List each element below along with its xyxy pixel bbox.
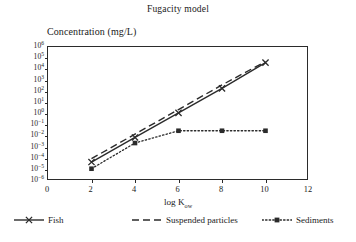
y-axis-tick-label: 10−5 [30,165,44,173]
data-point-marker [220,128,225,133]
legend-label: Fish [48,215,64,225]
data-point-marker [262,60,268,66]
y-axis-tick-mark [45,92,49,93]
x-axis-label: log Kow [0,197,356,207]
y-axis-tick-label: 105 [34,53,44,61]
legend-line-sample [262,215,292,225]
data-point-marker [175,110,181,116]
x-axis-tick-label: 4 [132,185,136,194]
y-axis-tick-label: 100 [34,109,44,117]
legend-item-sediments[interactable]: Sediments [262,215,334,225]
y-axis-tick-label: 101 [34,98,44,106]
legend-label: Suspended particles [166,215,238,225]
data-series-layer [48,47,309,181]
legend-label: Sediments [296,215,334,225]
legend-item-fish[interactable]: Fish [14,215,64,225]
series-fish [88,60,268,166]
y-axis-tick-mark [45,125,49,126]
chart-legend: FishSuspended particlesSediments [0,215,356,231]
plot-area [47,46,308,180]
y-axis-tick-mark [45,69,49,70]
data-point-marker [89,166,94,171]
y-axis-label: Concentration (mg/L) [47,26,136,37]
chart-figure: Fugacity model Concentration (mg/L) 1061… [0,0,356,242]
y-axis-tick-label: 104 [34,65,44,73]
data-point-marker [176,128,181,133]
y-axis-tick-mark [45,81,49,82]
y-axis-tick-label: 10−2 [30,132,44,140]
y-axis-tick-label: 106 [34,42,44,50]
data-point-marker [263,128,268,133]
x-axis-label-base: log K [164,197,185,207]
y-axis-tick-mark [45,58,49,59]
y-axis-tick-label: 103 [34,76,44,84]
data-point-marker [88,159,94,165]
y-axis-tick-label: 10−4 [30,154,44,162]
x-axis-tick-label: 10 [260,185,268,194]
y-axis-tick-mark [45,103,49,104]
legend-line-sample [14,215,44,225]
chart-title: Fugacity model [0,4,356,14]
y-axis-tick-mark [45,114,49,115]
y-axis-tick-label: 10−3 [30,143,44,151]
y-axis-tick-label: 10−1 [30,120,44,128]
x-axis-tick-label: 0 [45,185,49,194]
x-axis-tick-mark [179,179,180,183]
legend-item-suspended-particles[interactable]: Suspended particles [132,215,238,225]
x-axis-tick-label: 2 [88,185,92,194]
x-axis-tick-mark [135,179,136,183]
y-axis-tick-mark [45,159,49,160]
legend-line-sample [132,215,162,225]
x-axis-tick-label: 8 [219,185,223,194]
data-point-marker [133,141,138,146]
x-axis-tick-mark [92,179,93,183]
x-axis-tick-label: 12 [304,185,312,194]
series-suspended-particles [92,62,266,159]
y-axis-tick-mark [45,136,49,137]
y-axis-tick-mark [45,170,49,171]
y-axis-tick-label: 10−6 [30,176,44,184]
x-axis-tick-label: 6 [175,185,179,194]
series-sediments [89,128,268,171]
x-axis-label-subscript: ow [185,202,193,209]
x-axis-tick-mark [266,179,267,183]
x-axis-tick-mark [222,179,223,183]
y-axis-tick-mark [45,148,49,149]
series-line [92,131,266,169]
y-axis-tick-label: 102 [34,87,44,95]
legend-marker [275,218,280,223]
series-line [92,62,266,159]
